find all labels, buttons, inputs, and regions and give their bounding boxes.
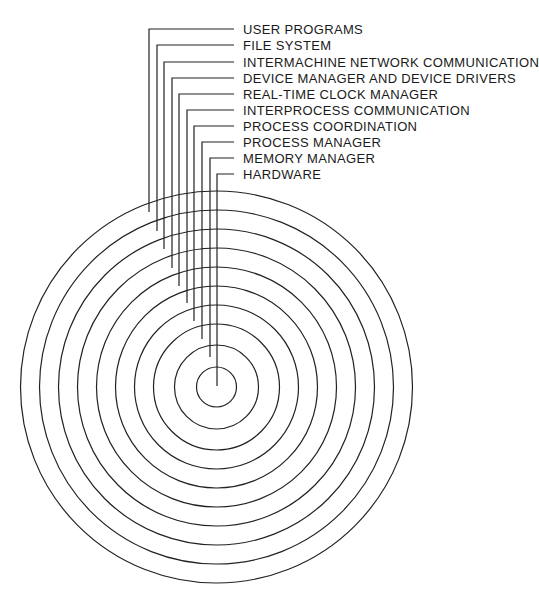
label-memory-manager: MEMORY MANAGER xyxy=(243,152,375,165)
label-real-time-clock-manager: REAL-TIME CLOCK MANAGER xyxy=(243,88,438,101)
leader-line-1 xyxy=(149,29,234,212)
leader-line-3 xyxy=(164,62,234,249)
label-process-coordination: PROCESS COORDINATION xyxy=(243,120,417,133)
leader-line-7 xyxy=(194,126,234,321)
label-file-system: FILE SYSTEM xyxy=(243,39,331,52)
label-user-programs: USER PROGRAMS xyxy=(243,23,363,36)
leader-line-10 xyxy=(217,174,234,386)
leader-lines xyxy=(149,29,234,386)
label-intermachine-network-communication: INTERMACHINE NETWORK COMMUNICATION xyxy=(243,56,539,69)
leader-line-4 xyxy=(172,78,234,268)
leader-line-2 xyxy=(157,45,234,231)
leader-line-9 xyxy=(210,158,234,357)
label-device-manager-and-device-drivers: DEVICE MANAGER AND DEVICE DRIVERS xyxy=(243,72,516,85)
label-process-manager: PROCESS MANAGER xyxy=(243,136,381,149)
label-hardware: HARDWARE xyxy=(243,168,321,181)
leader-line-8 xyxy=(202,142,234,339)
label-interprocess-communication: INTERPROCESS COMMUNICATION xyxy=(243,104,470,117)
